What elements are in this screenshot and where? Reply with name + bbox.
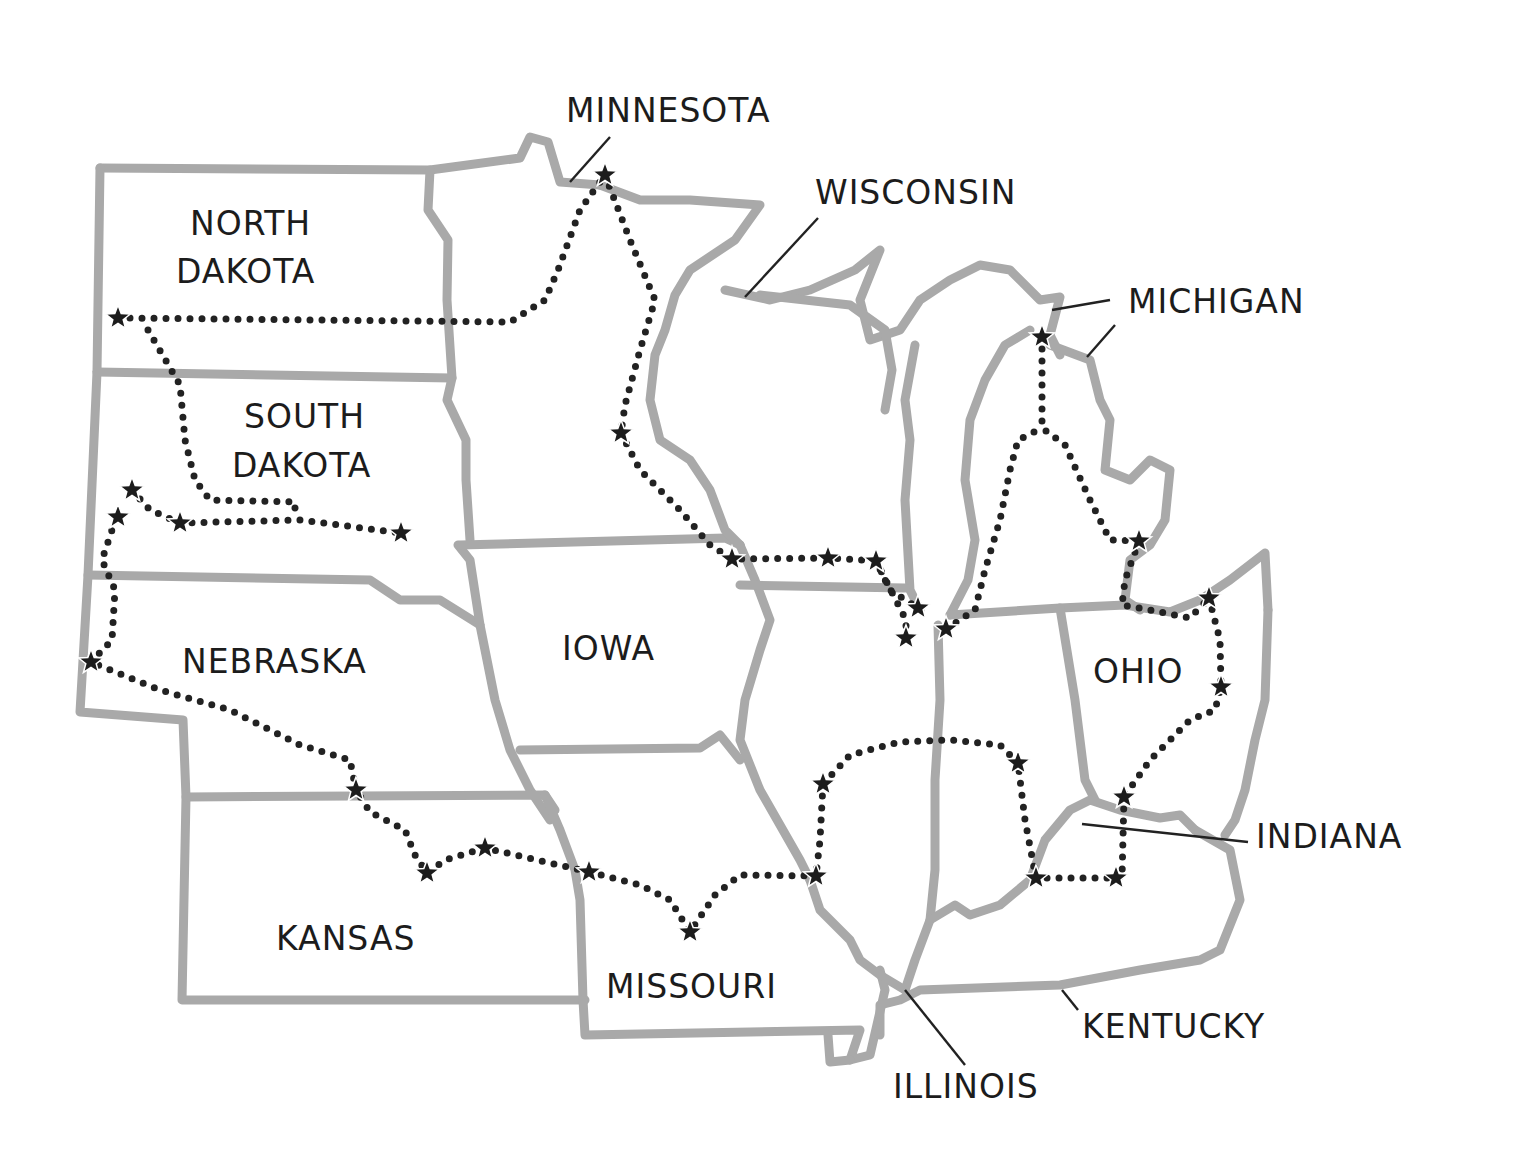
midwest-map: NORTHDAKOTASOUTHDAKOTANEBRASKAIOWAKANSAS…	[0, 0, 1524, 1172]
star-icon	[894, 625, 919, 649]
star-icon	[473, 835, 498, 859]
state-label-ohio: OHIO	[1093, 652, 1184, 691]
star-icon	[864, 548, 889, 572]
state-label-south-dakota-1: SOUTH	[244, 397, 365, 436]
star-icon	[106, 504, 131, 528]
state-label-illinois: ILLINOIS	[893, 1067, 1039, 1106]
state-label-missouri: MISSOURI	[606, 967, 777, 1006]
state-label-north-dakota-1: NORTH	[190, 204, 311, 243]
star-icon	[168, 510, 193, 534]
state-label-michigan: MICHIGAN	[1128, 282, 1305, 321]
state-label-north-dakota-2: DAKOTA	[176, 252, 315, 291]
star-icon	[678, 919, 703, 943]
state-label-indiana: INDIANA	[1256, 817, 1402, 856]
leader-lines	[570, 137, 1248, 1065]
star-icon	[106, 305, 131, 329]
state-label-kansas: KANSAS	[276, 919, 415, 958]
state-label-wisconsin: WISCONSIN	[815, 173, 1016, 212]
state-label-minnesota: MINNESOTA	[566, 91, 771, 130]
state-label-south-dakota-2: DAKOTA	[232, 446, 371, 485]
star-icon	[609, 420, 634, 444]
star-icon	[389, 520, 414, 544]
state-label-kentucky: KENTUCKY	[1082, 1007, 1265, 1046]
state-label-iowa: IOWA	[562, 629, 655, 668]
state-label-nebraska: NEBRASKA	[182, 642, 367, 681]
star-icon	[816, 545, 841, 569]
